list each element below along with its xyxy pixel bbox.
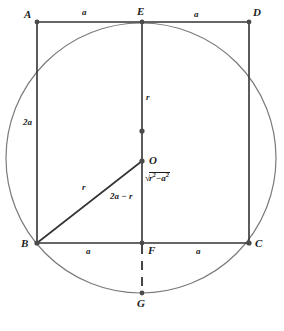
segment-O-B-radius bbox=[37, 161, 142, 243]
point-marker-top-intersection bbox=[139, 128, 144, 133]
radical-exponent-a: 2 bbox=[166, 171, 169, 178]
point-marker-B bbox=[34, 240, 39, 245]
point-marker-A bbox=[35, 20, 40, 25]
measure-label-left-side-2a: 2a bbox=[23, 118, 32, 127]
vertex-label-C: C bbox=[255, 238, 262, 249]
vertex-label-O: O bbox=[149, 155, 157, 166]
figure-canvas bbox=[0, 0, 284, 331]
measure-label-median-lower-2a-minus-r: 2a − r bbox=[110, 192, 132, 201]
point-marker-E bbox=[140, 20, 145, 25]
circle-outline bbox=[6, 23, 276, 293]
measure-label-top-right-a: a bbox=[194, 10, 199, 19]
vertex-label-D: D bbox=[253, 7, 261, 18]
point-marker-O bbox=[139, 158, 144, 163]
point-marker-F bbox=[140, 241, 145, 246]
vertex-label-F: F bbox=[148, 245, 155, 256]
measure-label-bottom-right-a: a bbox=[196, 247, 201, 256]
geometry-figure: A E D O B F C G a a 2a r r 2a − r a a √r… bbox=[0, 0, 284, 331]
vertex-label-A: A bbox=[24, 9, 31, 20]
point-marker-D bbox=[247, 20, 252, 25]
vertex-label-G: G bbox=[137, 298, 145, 309]
measure-label-bottom-left-a: a bbox=[86, 247, 91, 256]
measure-label-top-left-a: a bbox=[82, 8, 87, 17]
vertex-label-B: B bbox=[21, 238, 28, 249]
radical-body: r2−a2 bbox=[149, 172, 170, 183]
measure-label-median-upper-r: r bbox=[146, 93, 150, 102]
measure-label-diagonal-r: r bbox=[82, 183, 86, 192]
point-marker-G bbox=[140, 291, 145, 296]
vertex-label-E: E bbox=[137, 6, 144, 17]
point-marker-C bbox=[246, 240, 251, 245]
measure-label-radical-sqrt-r2-minus-a2: √r2−a2 bbox=[145, 174, 170, 183]
